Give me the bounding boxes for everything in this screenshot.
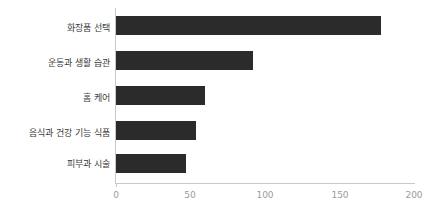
- category-label-2: 홈 케어: [0, 92, 110, 104]
- x-tick-label-4: 200: [405, 190, 422, 200]
- bar-row: [116, 113, 414, 148]
- x-axis-line: [115, 183, 415, 184]
- category-label-1: 운동과 생활 습관: [0, 57, 110, 69]
- x-tick-0: [116, 183, 117, 187]
- bar-3[interactable]: [116, 121, 196, 140]
- bar-row: [116, 8, 414, 43]
- bar-2[interactable]: [116, 86, 205, 105]
- bar-row: [116, 43, 414, 78]
- bar-4[interactable]: [116, 154, 186, 173]
- x-tick-label-3: 150: [331, 190, 348, 200]
- bar-0[interactable]: [116, 16, 381, 35]
- bar-row: [116, 146, 414, 181]
- category-label-4: 피부과 시술: [0, 158, 110, 170]
- bar-chart: 화장품 선택 운동과 생활 습관 홈 케어 음식과 건강 기능 식품 피부과 시…: [0, 0, 436, 216]
- category-label-0: 화장품 선택: [0, 22, 110, 34]
- x-tick-label-0: 0: [113, 190, 119, 200]
- bar-row: [116, 78, 414, 113]
- x-tick-label-2: 100: [256, 190, 273, 200]
- category-label-3: 음식과 건강 기능 식품: [0, 127, 110, 139]
- plot-area: [116, 8, 414, 183]
- x-tick-label-1: 50: [184, 190, 195, 200]
- bar-1[interactable]: [116, 51, 253, 70]
